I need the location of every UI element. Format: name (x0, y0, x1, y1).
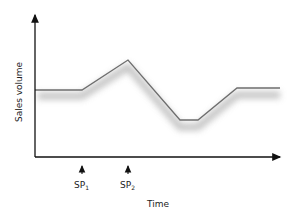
sales-line (35, 60, 280, 120)
sp2-label: SP2 (120, 180, 135, 191)
sp1-label: SP1 (74, 180, 89, 191)
line-shadow (38, 67, 280, 127)
y-axis-label: Sales volume (14, 61, 24, 122)
x-axis-label: Time (146, 199, 169, 209)
sales-volume-chart: SP1 SP2 Time Sales volume (0, 0, 296, 216)
